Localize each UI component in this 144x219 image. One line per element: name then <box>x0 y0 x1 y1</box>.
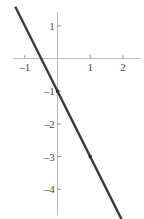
x-tick-label-1: 1 <box>88 62 93 73</box>
y-tick-label-1: 1 <box>49 20 54 31</box>
x-tick-label--1: –1 <box>19 62 30 73</box>
data-point-marker-1 <box>89 155 92 158</box>
y-tick-label--2: –2 <box>44 118 55 129</box>
data-point-marker-0 <box>56 90 59 93</box>
plot-area <box>0 0 144 219</box>
y-tick-label--3: –3 <box>44 151 55 162</box>
y-tick-label--4: –4 <box>44 184 55 195</box>
data-series-group <box>15 7 123 219</box>
data-line-line <box>15 7 123 219</box>
y-tick-label--1: –1 <box>44 86 55 97</box>
line-graph-figure: –112 1–1–2–3–4 <box>0 0 144 219</box>
x-tick-label-2: 2 <box>120 62 125 73</box>
